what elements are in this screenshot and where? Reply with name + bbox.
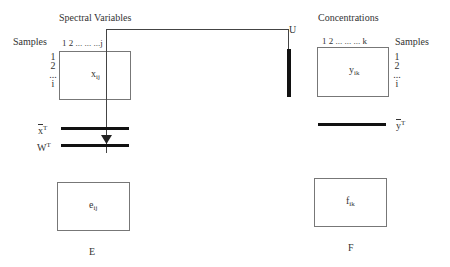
right-row-indices: 1 2 ... i bbox=[392, 52, 402, 88]
w-transpose-label: WT bbox=[37, 141, 51, 153]
connector-horizontal bbox=[106, 29, 289, 30]
concentrations-title: Concentrations bbox=[318, 12, 379, 23]
x-matrix: xij bbox=[59, 51, 131, 100]
x-mean-label: xT bbox=[38, 124, 47, 136]
y-matrix: yik bbox=[317, 47, 389, 97]
f-matrix-cell: fik bbox=[346, 195, 355, 208]
x-mean-bar bbox=[61, 127, 129, 130]
e-matrix: eij bbox=[57, 182, 130, 231]
u-vector-bar bbox=[287, 49, 291, 97]
left-column-indices: 1 2 ... ... ...j bbox=[62, 38, 103, 48]
f-matrix: fik bbox=[314, 178, 387, 227]
left-row-indices: 1 2 ... i bbox=[48, 52, 58, 88]
y-mean-label: yT bbox=[396, 119, 405, 131]
e-label: E bbox=[89, 246, 95, 257]
w-transpose-bar bbox=[61, 144, 129, 147]
y-matrix-cell: yik bbox=[349, 64, 359, 77]
right-samples-label: Samples bbox=[395, 36, 429, 47]
f-label: F bbox=[348, 242, 354, 253]
x-matrix-cell: xij bbox=[91, 68, 100, 81]
left-samples-label: Samples bbox=[13, 36, 47, 47]
u-label: U bbox=[289, 24, 296, 35]
y-mean-bar bbox=[318, 123, 386, 126]
spectral-variables-title: Spectral Variables bbox=[59, 12, 131, 23]
right-column-indices: 1 2 ... ... ... k bbox=[322, 36, 367, 46]
e-matrix-cell: eij bbox=[89, 199, 97, 212]
